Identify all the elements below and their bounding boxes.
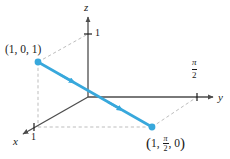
guide-start-to-z <box>38 34 88 62</box>
tick-marks <box>34 34 197 131</box>
z-axis-label: z <box>84 2 88 13</box>
end-label-open-paren: ( <box>146 135 151 151</box>
z-tick-label: 1 <box>95 28 100 38</box>
y-tick-label: π 2 <box>192 58 197 81</box>
3d-axis-figure: z 1 y π 2 x 1 (1, 0, 1) (1, π2, 0) <box>0 0 230 159</box>
end-label-denominator: 2 <box>163 145 169 153</box>
start-point-label: (1, 0, 1) <box>5 44 41 56</box>
y-tick-denominator: 2 <box>192 71 197 81</box>
end-label-prefix: 1, <box>151 137 163 149</box>
x-axis-label: x <box>13 136 18 147</box>
segment-direction-arrow-2 <box>108 102 121 110</box>
x-tick-label: 1 <box>31 132 36 142</box>
y-axis-label: y <box>218 92 223 103</box>
y-tick-numerator: π <box>192 58 197 68</box>
guide-lines <box>38 34 197 127</box>
segment-path <box>38 62 152 127</box>
end-label-fraction: π2 <box>163 135 169 154</box>
end-label-suffix: , 0 <box>169 137 181 149</box>
x-axis <box>23 97 88 134</box>
line-segment <box>35 59 156 131</box>
start-point-text: (1, 0, 1) <box>5 43 41 55</box>
end-label-close-paren: ) <box>180 135 185 151</box>
end-label-numerator: π <box>163 135 169 143</box>
end-point-marker <box>149 124 156 131</box>
axes-group <box>23 17 213 134</box>
start-point-marker <box>35 59 42 66</box>
segment-direction-arrow-1 <box>60 75 73 83</box>
guide-end-to-y <box>152 97 197 127</box>
end-point-label: (1, π2, 0) <box>146 135 185 154</box>
